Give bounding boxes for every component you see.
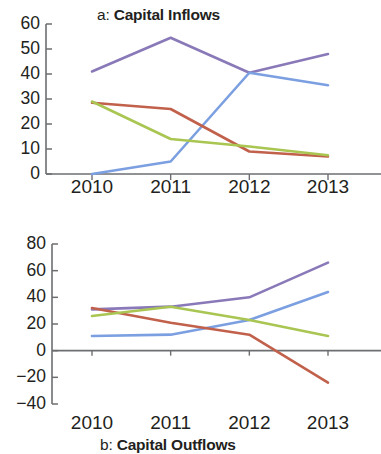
- series-line-red: [92, 103, 328, 157]
- x-tick-label: 2013: [298, 412, 358, 434]
- chart-a-plot: [0, 0, 381, 200]
- chart-a-title: a: Capital Inflows: [97, 6, 220, 24]
- y-tick-label: 50: [0, 38, 40, 59]
- y-tick-label: 10: [0, 138, 40, 159]
- y-tick-label: 40: [4, 286, 46, 307]
- x-tick-label: 2010: [62, 176, 122, 198]
- x-tick-label: 2011: [141, 176, 201, 198]
- y-tick-label: 30: [0, 88, 40, 109]
- series-line-blue: [92, 73, 328, 174]
- y-tick-label: 20: [4, 313, 46, 334]
- y-tick-label: 0: [0, 163, 40, 184]
- y-tick-label: −20: [4, 366, 46, 387]
- y-tick-label: 20: [0, 113, 40, 134]
- chart-a-title-prefix-text: a:: [97, 6, 110, 23]
- chart-panel-a: a: Capital Inflows 010203040506020102011…: [0, 0, 381, 200]
- x-tick-label: 2010: [62, 412, 122, 434]
- chart-b-title: b: Capital Outflows: [100, 436, 236, 454]
- chart-b-title-name: Capital Outflows: [117, 436, 236, 453]
- x-tick-label: 2012: [219, 176, 279, 198]
- x-tick-label: 2012: [219, 412, 279, 434]
- y-tick-label: 60: [4, 260, 46, 281]
- series-line-green: [92, 307, 328, 336]
- y-tick-label: 0: [4, 340, 46, 361]
- x-tick-label: 2013: [298, 176, 358, 198]
- chart-panel-b: b: Capital Outflows −40−2002040608020102…: [0, 200, 381, 427]
- y-tick-label: 80: [4, 233, 46, 254]
- series-line-green: [92, 102, 328, 156]
- y-tick-label: −40: [4, 393, 46, 414]
- y-tick-label: 60: [0, 13, 40, 34]
- x-tick-label: 2011: [141, 412, 201, 434]
- series-line-purple: [92, 263, 328, 310]
- chart-b-title-prefix: b:: [100, 436, 113, 453]
- chart-b-plot: [0, 200, 381, 427]
- y-tick-label: 40: [0, 63, 40, 84]
- chart-a-title-name: Capital Inflows: [114, 6, 220, 23]
- series-line-red: [92, 308, 328, 383]
- series-line-purple: [92, 38, 328, 73]
